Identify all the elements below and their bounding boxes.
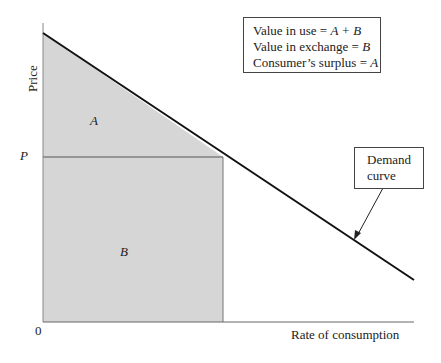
annotation-line1: Demand bbox=[367, 152, 423, 168]
price-p-label: P bbox=[20, 148, 28, 164]
region-b-shading bbox=[43, 157, 223, 322]
demand-curve-annotation: Demand curve bbox=[354, 147, 424, 189]
x-axis-label: Rate of consumption bbox=[291, 327, 399, 343]
legend-box: Value in use = A + B Value in exchange =… bbox=[243, 17, 381, 73]
y-axis-label: Price bbox=[25, 65, 41, 92]
annotation-arrow bbox=[357, 188, 383, 236]
legend-value-in-exchange: Value in exchange = B bbox=[253, 39, 380, 55]
legend-value-in-use: Value in use = A + B bbox=[253, 23, 380, 39]
origin-label: 0 bbox=[35, 323, 42, 339]
region-a-label: A bbox=[90, 113, 98, 129]
legend-consumer-surplus: Consumer’s surplus = A bbox=[253, 55, 380, 71]
region-b-label: B bbox=[120, 244, 128, 260]
annotation-line2: curve bbox=[367, 168, 423, 184]
